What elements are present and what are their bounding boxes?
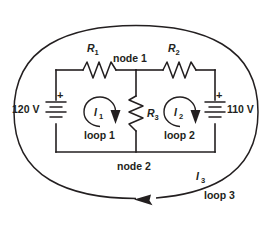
battery-left: + 120 V: [12, 89, 66, 117]
loop-2-indicator: I 2 loop 2: [164, 97, 201, 141]
battery-right-label: 110 V: [227, 103, 254, 115]
resistor-r3: R 3: [129, 96, 159, 131]
battery-left-polarity: +: [57, 89, 63, 101]
loop-1-arrowhead: [111, 110, 121, 124]
loop-1-current-label: I: [94, 106, 98, 118]
battery-right: + 110 V: [205, 89, 254, 117]
resistor-r1-zigzag: [83, 62, 116, 78]
loop-1-label: loop 1: [84, 129, 115, 141]
node-1-label: node 1: [113, 52, 147, 64]
loop-2-label: loop 2: [164, 129, 195, 141]
loop-1-indicator: I 1 loop 1: [84, 97, 121, 141]
circuit-diagram-figure: R 1 R 2 R 3 + 120 V: [0, 0, 270, 225]
loop-2-arrowhead: [191, 110, 201, 124]
circuit-diagram-svg: R 1 R 2 R 3 + 120 V: [0, 0, 270, 225]
resistor-r3-subscript: 3: [155, 113, 159, 122]
battery-left-label: 120 V: [12, 103, 39, 115]
resistor-r1-subscript: 1: [95, 48, 99, 57]
resistor-r1: R 1: [83, 42, 116, 78]
resistor-r2: R 2: [163, 42, 196, 78]
resistor-r2-subscript: 2: [176, 48, 180, 57]
loop-1-current-subscript: 1: [99, 112, 103, 121]
resistor-r3-zigzag: [129, 96, 143, 131]
loop-2-current-label: I: [174, 106, 178, 118]
loop-3-current-subscript: 3: [201, 176, 205, 185]
resistor-r2-zigzag: [163, 62, 196, 78]
loop-3-current-label: I: [196, 170, 200, 182]
loop-3-label: loop 3: [204, 189, 235, 201]
node-2-label: node 2: [117, 160, 151, 172]
loop-3-arrowhead: [134, 195, 153, 206]
battery-right-polarity: +: [216, 89, 222, 101]
loop-2-current-subscript: 2: [179, 112, 183, 121]
